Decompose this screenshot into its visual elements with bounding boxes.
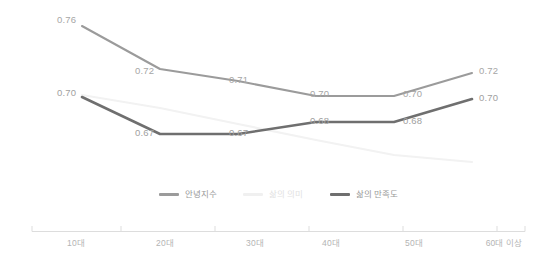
legend-item-satisfaction[interactable]: 삶의 만족도 xyxy=(330,190,398,199)
x-axis-label-60s-plus: 60대 이상 xyxy=(486,239,522,248)
data-label-satisfaction-20s: 0.67 xyxy=(135,128,154,138)
chart-plot-area xyxy=(0,0,557,275)
data-label-satisfaction-50s: 0.68 xyxy=(403,116,422,126)
x-axis-label-50s: 50대 xyxy=(405,239,423,248)
legend-item-wellbeing[interactable]: 안녕지수 xyxy=(159,190,217,199)
legend-item-label: 안녕지수 xyxy=(185,190,217,199)
data-label-wellbeing-10s: 0.76 xyxy=(57,15,76,25)
series-line-wellbeing xyxy=(82,26,472,96)
data-label-wellbeing-30s: 0.71 xyxy=(229,75,248,85)
legend-swatch-icon xyxy=(243,193,263,196)
data-label-wellbeing-50s: 0.70 xyxy=(403,89,422,99)
x-axis-label-10s: 10대 xyxy=(67,239,85,248)
legend-item-label: 삶의 의미 xyxy=(269,190,303,199)
legend-item-meaning[interactable]: 삶의 의미 xyxy=(243,190,303,199)
legend-swatch-icon xyxy=(330,193,350,196)
line-chart: 0.76 0.72 0.71 0.70 0.70 0.72 0.70 0.67 … xyxy=(0,0,557,275)
x-axis-label-20s: 20대 xyxy=(156,239,174,248)
legend-item-label: 삶의 만족도 xyxy=(356,190,398,199)
chart-legend: 안녕지수 삶의 의미 삶의 만족도 xyxy=(0,190,557,199)
x-axis-label-30s: 30대 xyxy=(246,239,264,248)
x-axis-label-40s: 40대 xyxy=(322,239,340,248)
data-label-wellbeing-60s: 0.72 xyxy=(479,66,498,76)
data-label-wellbeing-40s: 0.70 xyxy=(310,89,329,99)
data-label-satisfaction-30s: 0.67 xyxy=(229,128,248,138)
data-label-satisfaction-40s: 0.68 xyxy=(310,116,329,126)
data-label-satisfaction-60s: 0.70 xyxy=(479,93,498,103)
data-label-wellbeing-20s: 0.72 xyxy=(135,66,154,76)
legend-swatch-icon xyxy=(159,193,179,196)
data-label-satisfaction-10s: 0.70 xyxy=(57,88,76,98)
